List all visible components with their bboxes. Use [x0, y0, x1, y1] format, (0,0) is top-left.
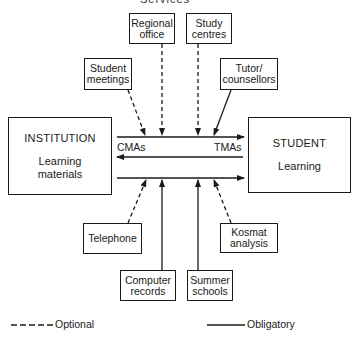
legend-optional-label: Optional	[55, 318, 94, 330]
study-centres-box: Study centres	[186, 13, 232, 44]
summer-schools-label: Summer schools	[189, 275, 231, 297]
student-meetings-connector	[128, 90, 145, 135]
summer-schools-box: Summer schools	[187, 270, 233, 301]
kosmat-analysis-label: Kosmat analysis	[224, 227, 274, 249]
legend-obligatory-label: Obligatory	[247, 318, 295, 330]
telephone-label: Telephone	[88, 233, 136, 244]
tutor-counsellors-label: Tutor/ counsellors	[221, 63, 277, 85]
student-subtitle: Learning	[278, 160, 321, 173]
student-meetings-box: Student meetings	[84, 58, 132, 90]
cmas-label: CMAs	[117, 141, 146, 153]
regional-office-box: Regional office	[129, 13, 175, 44]
telephone-box: Telephone	[83, 223, 142, 254]
student-meetings-label: Student meetings	[86, 63, 130, 85]
tmas-label: TMAs	[214, 141, 241, 153]
tutor-counsellors-box: Tutor/ counsellors	[220, 58, 278, 90]
student-title: STUDENT	[273, 137, 326, 150]
institution-title: INSTITUTION	[24, 132, 95, 145]
computer-records-box: Computer records	[120, 270, 176, 301]
kosmat-analysis-connector	[214, 180, 231, 223]
institution-box: INSTITUTION Learning materials	[8, 117, 112, 195]
tutor-counsellors-connector	[214, 90, 231, 135]
telephone-connector	[128, 180, 146, 223]
institution-subtitle: Learning materials	[30, 155, 90, 181]
computer-records-label: Computer records	[123, 275, 173, 297]
regional-office-label: Regional office	[130, 18, 174, 40]
kosmat-analysis-box: Kosmat analysis	[220, 223, 278, 253]
study-centres-label: Study centres	[189, 18, 229, 40]
student-box: STUDENT Learning	[248, 117, 351, 193]
